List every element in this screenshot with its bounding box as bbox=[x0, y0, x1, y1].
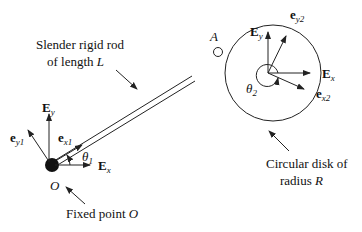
pin-joint-A bbox=[214, 48, 223, 57]
fixed-point-leader-arrow bbox=[66, 187, 85, 204]
theta1-arc bbox=[67, 155, 70, 165]
theta2-label: θ2 bbox=[246, 81, 257, 98]
point-A-label: A bbox=[209, 29, 218, 44]
rod-leader-arrow bbox=[116, 70, 137, 89]
disk-label-line1: Circular disk of bbox=[266, 156, 348, 171]
Ey-label-O: Ey bbox=[42, 100, 55, 117]
rod-label-line2: of length L bbox=[47, 54, 104, 69]
rod-label-line1: Slender rigid rod bbox=[36, 37, 125, 52]
Ex-label-O: Ex bbox=[98, 158, 111, 175]
slender-rod bbox=[54, 76, 195, 166]
ey1-label: ey1 bbox=[10, 130, 24, 147]
ex2-arrow bbox=[268, 73, 304, 89]
ey2-arrow bbox=[268, 36, 286, 73]
theta1-label: θ1 bbox=[82, 149, 93, 166]
Ex-label-disk: Ex bbox=[322, 66, 335, 83]
point-O-label: O bbox=[50, 178, 60, 193]
ey2-label: ey2 bbox=[290, 7, 305, 24]
fixed-point-label: Fixed point O bbox=[66, 206, 139, 221]
ex2-label: ex2 bbox=[316, 86, 331, 103]
ex1-label: ex1 bbox=[58, 130, 72, 147]
ey1-arrow bbox=[28, 130, 48, 160]
disk-leader-arrow bbox=[269, 131, 289, 151]
disk-label-line2: radius R bbox=[280, 173, 323, 188]
rod-disk-diagram: Slender rigid rod of length L A O Fixed … bbox=[0, 0, 362, 232]
